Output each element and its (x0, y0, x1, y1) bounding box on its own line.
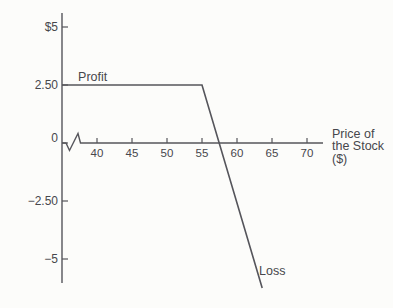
y-tick-label: 0 (51, 131, 58, 145)
x-tick-label: 65 (266, 147, 279, 159)
x-tick-label: 50 (161, 147, 174, 159)
x-tick-label: 45 (126, 147, 139, 159)
payoff-chart-canvas: 40455055606570$52.500−2.50−5ProfitLossPr… (0, 0, 393, 308)
y-tick-label: $5 (45, 20, 59, 34)
x-axis-title-line: ($) (332, 152, 347, 166)
y-tick-label: 2.50 (35, 78, 59, 92)
x-tick-label: 60 (231, 147, 244, 159)
x-tick-label: 55 (196, 147, 209, 159)
option-payoff-figure: 40455055606570$52.500−2.50−5ProfitLossPr… (0, 0, 393, 308)
y-tick-label: −2.50 (28, 194, 59, 208)
option-payoff-line (62, 85, 262, 288)
x-tick-label: 70 (301, 147, 314, 159)
y-tick-label: −5 (44, 252, 58, 266)
x-tick-label: 40 (91, 147, 104, 159)
annotation-profit: Profit (78, 70, 108, 84)
annotation-loss: Loss (259, 264, 285, 278)
